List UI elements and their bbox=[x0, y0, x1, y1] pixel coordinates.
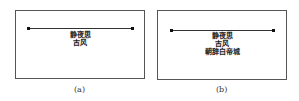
panel-b: 静夜思 古风 朝辞白帝城 bbox=[157, 10, 287, 80]
caption-b: (b) bbox=[216, 85, 227, 94]
text-block: 静夜思 古风 朝辞白帝城 bbox=[158, 32, 286, 56]
text-block: 静夜思 古风 bbox=[16, 31, 144, 47]
text-line-style: 古风 bbox=[16, 39, 144, 47]
timeline-bar bbox=[28, 28, 133, 29]
text-line-extra: 朝辞白帝城 bbox=[158, 48, 286, 56]
caption-a: (a) bbox=[74, 85, 85, 94]
left-endpoint-marker-icon[interactable] bbox=[27, 27, 30, 30]
right-endpoint-marker-icon[interactable] bbox=[131, 27, 134, 30]
panel-a: 静夜思 古风 bbox=[15, 10, 145, 79]
